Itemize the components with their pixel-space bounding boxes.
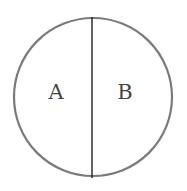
region-label-b: B bbox=[117, 80, 132, 104]
circle-outline bbox=[14, 18, 172, 176]
divided-circle-diagram: A B bbox=[0, 0, 187, 191]
region-label-a: A bbox=[47, 80, 64, 104]
